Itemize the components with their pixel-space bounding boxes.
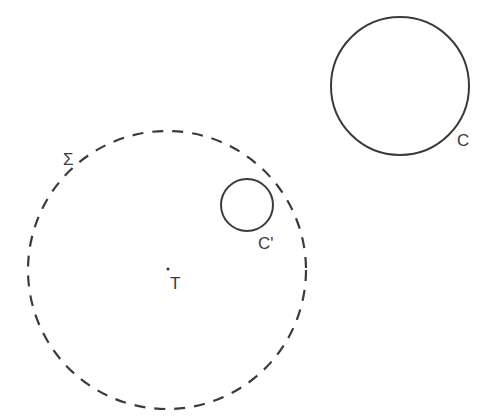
circle-c [331,17,469,155]
point-t [166,267,169,270]
label-sigma: Σ [63,150,74,169]
label-c: C [457,131,469,150]
label-t: T [170,274,180,293]
label-c-prime: C' [258,234,274,253]
circle-c-prime [221,179,273,231]
diagram-canvas: Σ C C' T [0,0,501,418]
